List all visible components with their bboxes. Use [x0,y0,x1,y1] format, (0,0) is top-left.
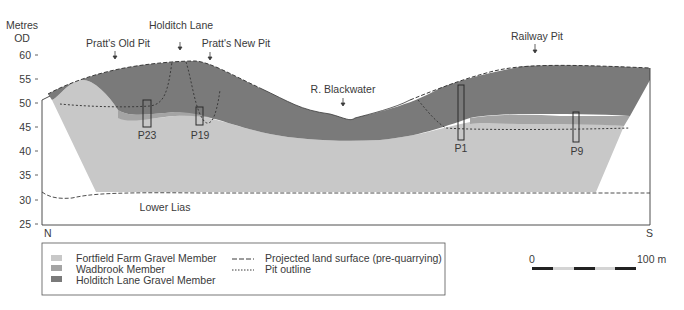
y-axis: 60 55 50 45 40 35 30 25 [19,49,38,230]
y-tick-35: 35 [19,169,31,181]
legend-label-holditch: Holditch Lane Gravel Member [76,274,216,286]
legend-swatch-wadbrook [51,265,62,271]
label-lower-lias: Lower Lias [140,201,191,213]
legend-swatch-fortfield [51,255,62,261]
arrow-down-icon [341,103,345,106]
borehole-label-p19: P19 [191,129,210,141]
legend-swatch-holditch [51,276,62,282]
label-railway-pit: Railway Pit [511,30,563,42]
y-axis-title-line2: OD [14,32,30,44]
y-tick-30: 30 [19,194,31,206]
legend: Fortfield Farm Gravel Member Wadbrook Me… [42,243,445,295]
y-tick-55: 55 [19,73,31,85]
y-tick-50: 50 [19,97,31,109]
label-r-blackwater: R. Blackwater [311,83,376,95]
label-holditch-lane: Holditch Lane [149,19,213,31]
label-pratts-new-pit: Pratt's New Pit [202,37,271,49]
arrow-down-icon [533,50,537,53]
y-tick-25: 25 [19,218,31,230]
arrow-down-icon [113,56,117,59]
lower-lias-contact-line [42,192,650,198]
y-tick-40: 40 [19,145,31,157]
label-south: S [646,227,653,239]
borehole-label-p9: P9 [571,145,584,157]
arrow-down-icon [178,47,182,50]
scale-bar: 0 100 m [529,253,666,270]
borehole-label-p1: P1 [455,142,468,154]
y-tick-60: 60 [19,49,31,61]
scale-bar-start-label: 0 [529,253,535,265]
label-pratts-old-pit: Pratt's Old Pit [86,37,150,49]
legend-label-pit-outline: Pit outline [265,263,311,275]
borehole-label-p23: P23 [138,129,157,141]
geological-cross-section: Metres OD 60 55 50 45 40 35 30 25 [0,0,684,310]
y-axis-title-line1: Metres [6,19,38,31]
label-north: N [44,227,52,239]
scale-bar-end-label: 100 m [637,253,666,265]
y-tick-45: 45 [19,121,31,133]
arrow-down-icon [208,57,212,60]
